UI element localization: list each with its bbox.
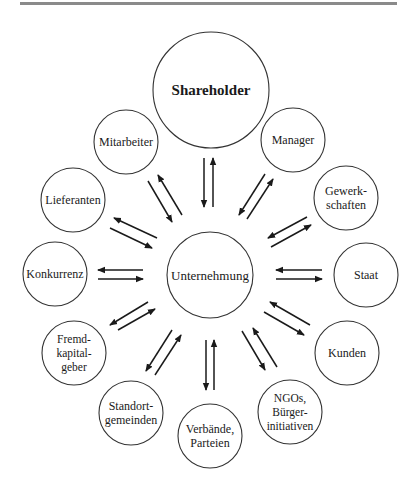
arrow-from-standortgemeinden (155, 335, 181, 375)
arrow-from-unternehmung (271, 225, 311, 247)
node-standortgemeinden: Standort-gemeinden (99, 381, 163, 445)
arrow-from-kunden (270, 302, 310, 325)
node-label: Gewerk- (325, 184, 367, 198)
node-label: Manager (272, 133, 315, 147)
stakeholder-diagram: ShareholderUnternehmungMitarbeiterManage… (0, 0, 419, 492)
node-label: initiativen (267, 420, 314, 432)
node-verbaende: Verbände,Parteien (178, 404, 242, 468)
arrow-from-unternehmung (114, 218, 157, 238)
arrow-from-unternehmung (242, 331, 265, 370)
node-lieferanten: Lieferanten (41, 168, 105, 232)
node-konkurrenz: Konkurrenz (23, 242, 87, 306)
arrow-from-unternehmung (146, 330, 172, 371)
arrow-from-lieferanten (110, 228, 152, 248)
arrow-from-manager (239, 174, 265, 215)
node-label: NGOs, (274, 392, 306, 405)
arrow-from-unternehmung (264, 312, 304, 335)
node-gewerkschaften: Gewerk-schaften (314, 166, 378, 230)
arrow-from-mitarbeiter (148, 181, 172, 222)
node-label: Staat (354, 268, 379, 282)
node-label: gemeinden (105, 413, 158, 427)
node-fremdkapitalgeber: Fremd-kapital-geber (42, 321, 106, 385)
node-label: Parteien (190, 436, 229, 450)
node-staat: Staat (334, 243, 398, 307)
arrow-from-unternehmung (158, 175, 182, 215)
node-label: Standort- (109, 399, 154, 413)
node-label: schaften (326, 198, 366, 212)
arrow-from-gewerkschaften (268, 217, 307, 238)
node-mitarbeiter: Mitarbeiter (94, 110, 158, 174)
arrow-from-ngos (253, 328, 277, 367)
node-label: Fremd- (57, 333, 91, 345)
node-label: Verbände, (186, 422, 234, 436)
node-unternehmung: Unternehmung (167, 232, 253, 318)
node-label: Shareholder (172, 82, 251, 98)
node-kunden: Kunden (315, 321, 379, 385)
node-shareholder: Shareholder (153, 32, 269, 148)
node-label: Lieferanten (45, 193, 100, 207)
arrow-from-unternehmung (110, 302, 148, 325)
node-label: Unternehmung (171, 268, 249, 283)
node-label: Kunden (328, 346, 366, 360)
arrow-from-unternehmung (247, 179, 273, 219)
node-label: Konkurrenz (26, 267, 83, 281)
node-manager: Manager (261, 108, 325, 172)
node-ngos: NGOs,Bürger-initiativen (258, 380, 322, 444)
node-label: kapital- (56, 347, 91, 360)
arrow-from-fremdkapitalgeber (118, 309, 155, 330)
node-label: Mitarbeiter (99, 135, 153, 149)
node-label: Bürger- (272, 406, 307, 419)
node-label: geber (61, 361, 87, 374)
nodes-layer: ShareholderUnternehmungMitarbeiterManage… (23, 32, 398, 468)
